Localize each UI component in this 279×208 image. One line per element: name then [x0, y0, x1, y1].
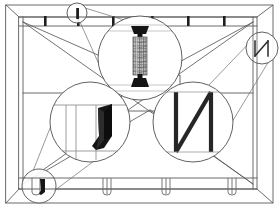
bottom-rail-foot [228, 178, 236, 195]
top-rail-clip [223, 16, 226, 26]
callout-detail-bracket[interactable] [50, 82, 130, 162]
bottom-rail-foot [103, 178, 111, 195]
callout-detail-brace[interactable] [153, 82, 233, 162]
bottom-rail-foot [162, 178, 170, 195]
top-rail-clip [44, 16, 47, 26]
technical-drawing [0, 0, 279, 208]
clamp-spring-body [133, 37, 147, 75]
leader-line [208, 40, 252, 86]
figure-canvas: Perspective line drawing of rectangular … [0, 0, 279, 208]
top-rail-clip [187, 16, 190, 26]
callout-source-brace[interactable] [246, 32, 278, 64]
callout-source-bracket[interactable] [22, 169, 56, 203]
bottom-rail-feet [32, 178, 236, 195]
callout-source-clamp[interactable] [67, 3, 87, 26]
